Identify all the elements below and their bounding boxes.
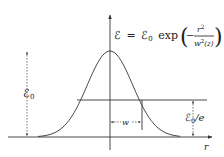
one-over-e-label: ℰ0/e <box>185 112 205 125</box>
gaussian-equation: ℰ = ℰ0 exp ( − r2 w2(z) ) <box>114 23 223 49</box>
gaussian-curve <box>38 51 180 136</box>
right-paren: ) <box>214 24 223 49</box>
peak-amplitude-label: ℰ0 <box>23 87 34 101</box>
svg-text:w2(z): w2(z) <box>194 38 214 48</box>
gaussian-diagram: ℰ = ℰ0 exp ( − r2 w2(z) ) ℰ0 ℰ0/e w r <box>0 0 224 157</box>
r-axis-label: r <box>204 142 209 152</box>
svg-text:r2: r2 <box>197 23 205 34</box>
svg-text:ℰ = ℰ0 exp: ℰ = ℰ0 exp <box>114 29 178 44</box>
beam-radius-label: w <box>122 118 129 127</box>
